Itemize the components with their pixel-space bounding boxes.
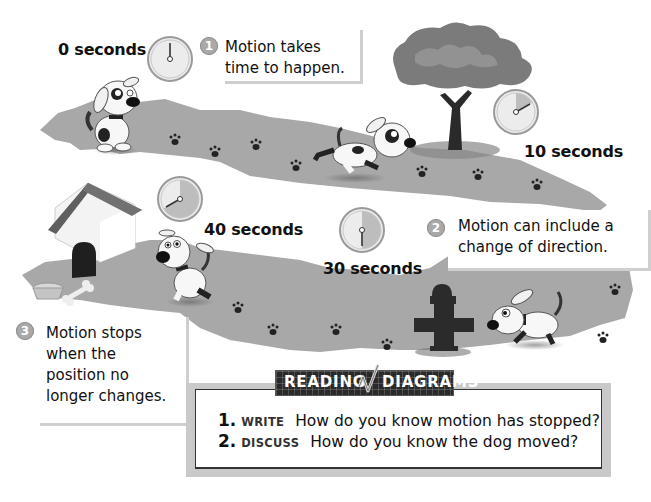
checkmark-icon — [356, 363, 382, 397]
question-2-verb: DISCUSS — [241, 436, 299, 450]
question-2: 2. DISCUSS How do you know the dog moved… — [218, 431, 578, 451]
callout-2-badge: 2 — [427, 219, 445, 237]
question-2-number: 2. — [218, 431, 236, 451]
time-label-30: 30 seconds — [323, 259, 422, 278]
banner-text-reading: READING — [284, 373, 366, 391]
time-label-0: 0 seconds — [58, 40, 146, 59]
clock-0-seconds — [148, 37, 192, 81]
question-1-text: How do you know motion has stopped? — [295, 412, 600, 430]
questions-box: 1. WRITE How do you know motion has stop… — [195, 389, 602, 469]
clock-10-seconds — [494, 90, 538, 134]
time-label-10: 10 seconds — [524, 142, 623, 161]
question-2-text: How do you know the dog moved? — [310, 433, 578, 451]
callout-3-line-3: position no — [46, 365, 186, 386]
callout-1: Motion takes time to happen. — [225, 30, 363, 84]
clock-40-seconds — [158, 177, 202, 221]
question-1: 1. WRITE How do you know motion has stop… — [218, 410, 600, 430]
question-1-verb: WRITE — [241, 415, 284, 429]
callout-2-line-1: Motion can include a — [458, 216, 648, 237]
callout-1-line-2: time to happen. — [225, 58, 360, 79]
callout-3-line-4: longer changes. — [46, 386, 186, 407]
food-bowl — [33, 283, 63, 299]
callout-3: Motion stops when the position no longer… — [40, 317, 189, 426]
callout-3-line-2: when the — [46, 344, 186, 365]
question-1-number: 1. — [218, 410, 236, 430]
banner-text-diagrams: DIAGRAMS — [382, 373, 479, 391]
clock-30-seconds — [340, 208, 384, 252]
callout-3-line-1: Motion stops — [46, 323, 186, 344]
callout-3-badge: 3 — [16, 322, 34, 340]
reading-diagrams-banner: READING DIAGRAMS — [275, 370, 454, 396]
callout-2-line-2: change of direction. — [458, 237, 648, 258]
callout-2: Motion can include a change of direction… — [448, 210, 651, 271]
time-label-40: 40 seconds — [204, 220, 303, 239]
callout-1-badge: 1 — [200, 37, 218, 55]
callout-1-line-1: Motion takes — [225, 37, 360, 58]
